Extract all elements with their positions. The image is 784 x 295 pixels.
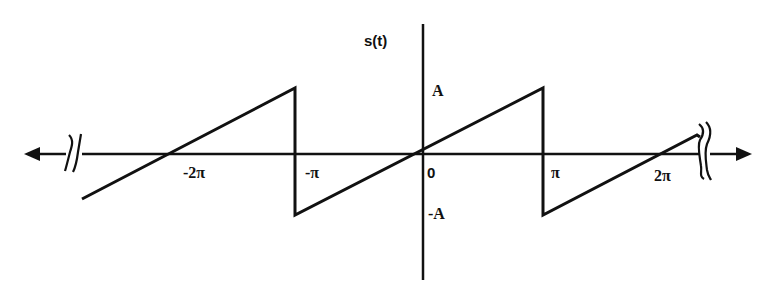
left-axis-break-icon (65, 134, 81, 172)
right-arrow-icon (736, 147, 752, 161)
y-axis-label: s(t) (364, 32, 387, 49)
sawtooth-diagram: s(t) A -A -2π -π 0 π 2π (0, 0, 784, 295)
tick-label-neg-pi: -π (305, 164, 319, 181)
amplitude-positive-label: A (432, 82, 444, 99)
tick-label-neg-2pi: -2π (183, 164, 205, 181)
right-axis-break-icon (699, 122, 711, 180)
sawtooth-waveform (82, 88, 700, 215)
tick-label-zero: 0 (427, 164, 435, 181)
tick-label-pi: π (551, 164, 560, 181)
time-axis (24, 147, 752, 161)
tick-label-2pi: 2π (654, 167, 671, 184)
left-arrow-icon (24, 147, 40, 161)
amplitude-negative-label: -A (428, 205, 445, 222)
